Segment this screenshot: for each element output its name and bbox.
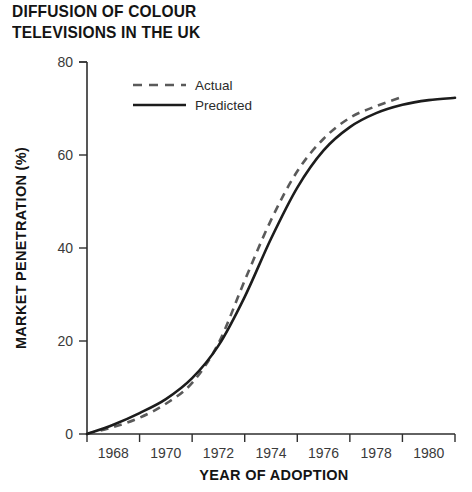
x-axis-title: YEAR OF ADOPTION: [199, 467, 348, 483]
y-tick-label: 40: [57, 240, 73, 256]
x-tick-label: 1974: [255, 445, 286, 461]
legend-label-actual: Actual: [195, 78, 233, 93]
y-tick-label: 80: [57, 54, 73, 70]
y-axis-tick-labels: 020406080: [57, 54, 73, 442]
x-tick-label: 1968: [98, 445, 129, 461]
chart-figure: DIFFUSION OF COLOUR TELEVISIONS IN THE U…: [0, 0, 472, 492]
legend-label-predicted: Predicted: [195, 98, 252, 113]
x-axis-tick-labels: 1968197019721974197619781980: [98, 445, 445, 461]
y-axis-ticks: [79, 62, 87, 434]
y-tick-label: 20: [57, 333, 73, 349]
x-tick-label: 1980: [413, 445, 444, 461]
x-axis-ticks: [87, 434, 455, 442]
y-axis-title: MARKET PENETRATION (%): [13, 147, 29, 349]
series-line-actual: [87, 97, 402, 434]
x-tick-label: 1976: [308, 445, 339, 461]
chart-legend: Actual Predicted: [133, 78, 252, 113]
y-tick-label: 0: [65, 426, 73, 442]
x-tick-label: 1970: [150, 445, 181, 461]
y-tick-label: 60: [57, 147, 73, 163]
x-tick-label: 1978: [361, 445, 392, 461]
series-line-predicted: [87, 98, 455, 434]
chart-plot-area: 020406080 1968197019721974197619781980 A…: [0, 0, 472, 492]
x-tick-label: 1972: [203, 445, 234, 461]
